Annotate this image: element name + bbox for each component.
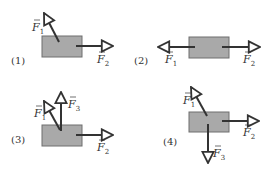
panel-label: (3) (11, 134, 25, 145)
force-f3-label: F3 (67, 98, 80, 113)
force-f3-label: F3 (212, 147, 225, 162)
panel-label: (2) (134, 55, 148, 66)
force-f1-label: F1 (31, 21, 44, 36)
force-f2-label: F2 (242, 53, 255, 68)
force-f2-label: F2 (242, 126, 255, 141)
force-f2-label: F2 (96, 53, 109, 68)
force-f2-label: F2 (96, 141, 109, 156)
force-diagrams: F1 F2 (1) F1 F2 (2) F1 F3 F2 (3) F1 (0, 0, 272, 174)
force-f1-label: F1 (33, 107, 46, 122)
force-f1-label: F1 (164, 53, 177, 68)
panel-1: F1 F2 (1) (11, 13, 113, 68)
force-f1-label: F1 (182, 94, 195, 109)
panel-label: (1) (11, 55, 25, 66)
panel-3: F1 F3 F2 (3) (11, 92, 113, 156)
panel-label: (4) (163, 136, 177, 147)
panel-4: F1 F2 F3 (4) (163, 87, 259, 163)
panel-2: F1 F2 (2) (134, 37, 260, 68)
